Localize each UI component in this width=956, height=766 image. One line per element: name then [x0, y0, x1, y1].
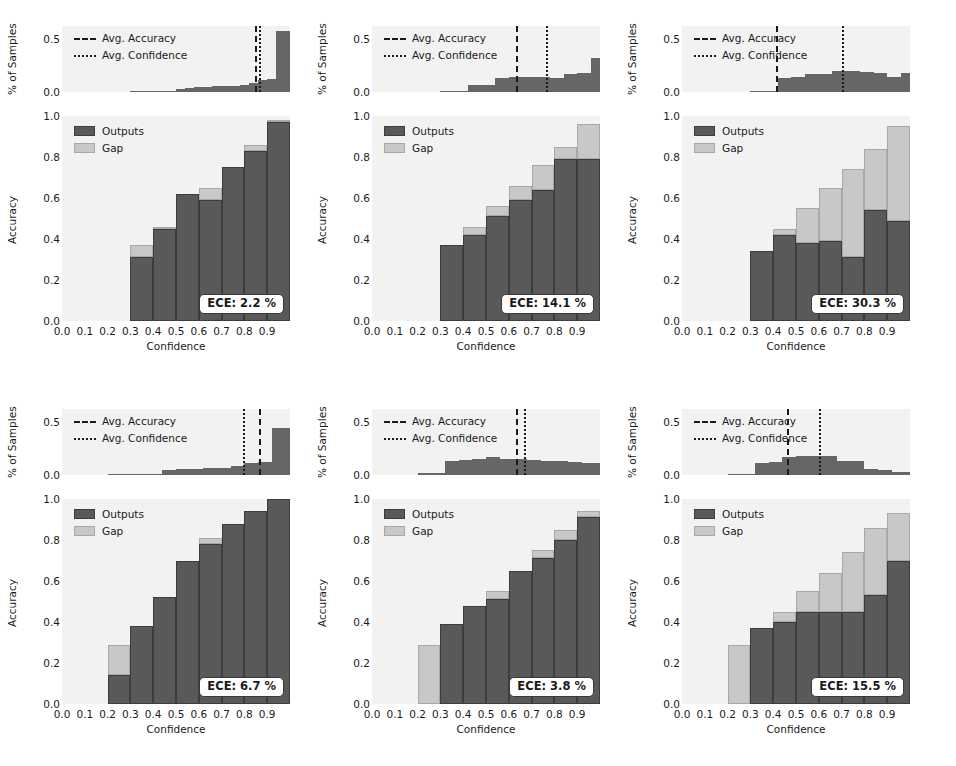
- histogram-legend-label: Avg. Confidence: [722, 430, 807, 447]
- accuracy-y-axis-title: Accuracy: [316, 170, 330, 270]
- reliability-bin: [153, 499, 176, 704]
- reliability-bin: [554, 499, 577, 704]
- histogram-bar: [454, 91, 468, 92]
- histogram-legend-item: Avg. Accuracy: [694, 413, 807, 430]
- reliability-bin: [199, 116, 222, 321]
- dashed-line-icon: [384, 38, 406, 40]
- confidence-x-tick-label: 0.3: [742, 708, 759, 720]
- histogram-legend-item: Avg. Accuracy: [384, 30, 497, 47]
- histogram-bar: [203, 468, 217, 475]
- ece-badge: ECE: 30.3 %: [811, 294, 904, 314]
- hist-y-axis-title: % of Samples: [6, 400, 20, 484]
- reliability-legend: OutputsGap: [74, 505, 144, 539]
- confidence-x-tick-label: 0.5: [478, 325, 495, 337]
- confidence-x-tick-label: 0.0: [674, 325, 691, 337]
- histogram-bar: [564, 74, 578, 92]
- confidence-x-tick-label: 0.7: [213, 708, 230, 720]
- accuracy-y-axis-title: Accuracy: [626, 553, 640, 653]
- confidence-x-axis-ticks: 0.00.10.20.30.40.50.60.70.80.9: [62, 708, 290, 722]
- confidence-x-tick-label: 0.0: [364, 708, 381, 720]
- histogram-bar: [796, 456, 810, 475]
- reliability-legend-label: Gap: [722, 142, 743, 154]
- ece-badge: ECE: 14.1 %: [501, 294, 594, 314]
- hist-y-tick-label: 0.5: [663, 417, 680, 427]
- dark-gray-swatch-icon: [74, 509, 95, 519]
- gap-bar: [486, 206, 509, 216]
- confidence-x-tick-label: 0.3: [432, 708, 449, 720]
- hist-y-axis-ticks: 0.00.5: [650, 409, 680, 475]
- confidence-x-tick-label: 0.8: [856, 325, 873, 337]
- light-gray-swatch-icon: [694, 143, 715, 153]
- confidence-x-tick-label: 0.9: [569, 708, 586, 720]
- histogram-bar: [162, 470, 176, 475]
- histogram-bar: [486, 457, 500, 475]
- histogram-bar: [176, 469, 190, 475]
- hist-y-tick-label: 0.5: [43, 34, 60, 44]
- dashed-line-icon: [74, 421, 96, 423]
- confidence-x-tick-label: 0.2: [99, 325, 116, 337]
- outputs-bar: [486, 599, 509, 704]
- hist-y-tick-label: 0.0: [663, 87, 680, 97]
- accuracy-y-tick-label: 1.0: [353, 494, 370, 504]
- gap-bar: [842, 552, 865, 611]
- avg-confidence-line: [259, 26, 261, 92]
- reliability-legend-label: Gap: [412, 525, 433, 537]
- accuracy-y-tick-label: 0.2: [353, 658, 370, 668]
- avg-confidence-line: [819, 409, 821, 475]
- gap-bar: [463, 227, 486, 235]
- reliability-panel-4: % of Samples0.00.5Avg. AccuracyAvg. Conf…: [0, 383, 318, 766]
- histogram-bar: [149, 91, 158, 92]
- histogram-bar: [554, 461, 568, 475]
- histogram-bar: [130, 91, 139, 92]
- reliability-bin: [887, 116, 910, 321]
- reliability-legend-item: Outputs: [384, 122, 454, 139]
- reliability-legend-label: Outputs: [102, 508, 144, 520]
- reliability-legend: OutputsGap: [694, 122, 764, 156]
- histogram-bar: [536, 77, 550, 92]
- hist-y-tick-label: 0.5: [353, 417, 370, 427]
- dotted-line-icon: [694, 55, 716, 57]
- dashed-line-icon: [384, 421, 406, 423]
- histogram-bar: [568, 462, 582, 475]
- confidence-x-tick-label: 0.9: [879, 325, 896, 337]
- reliability-legend-label: Gap: [102, 142, 123, 154]
- accuracy-y-tick-label: 1.0: [43, 111, 60, 121]
- histogram-bar: [176, 89, 185, 92]
- reliability-legend: OutputsGap: [74, 122, 144, 156]
- dark-gray-swatch-icon: [694, 126, 715, 136]
- histogram-legend-item: Avg. Confidence: [384, 47, 497, 64]
- histogram-bar: [522, 77, 536, 92]
- reliability-legend: OutputsGap: [384, 122, 454, 156]
- gap-bar: [130, 245, 153, 257]
- confidence-x-tick-label: 0.4: [455, 708, 472, 720]
- histogram-bar: [887, 77, 901, 92]
- confidence-histogram: Avg. AccuracyAvg. Confidence: [372, 409, 600, 475]
- histogram-bar: [481, 85, 495, 92]
- histogram-bar: [418, 473, 432, 475]
- confidence-x-axis-title: Confidence: [372, 723, 600, 735]
- histogram-bar: [459, 460, 473, 475]
- histogram-legend-item: Avg. Confidence: [694, 430, 807, 447]
- gap-bar: [728, 645, 751, 704]
- gap-bar: [887, 513, 910, 560]
- reliability-bin: [864, 116, 887, 321]
- hist-y-axis-ticks: 0.00.5: [650, 26, 680, 92]
- reliability-bin: [577, 116, 600, 321]
- histogram-bar: [249, 83, 258, 92]
- accuracy-y-axis-ticks: 0.00.20.40.60.81.0: [30, 116, 60, 321]
- dotted-line-icon: [384, 438, 406, 440]
- dotted-line-icon: [74, 438, 96, 440]
- accuracy-y-tick-label: 0.6: [663, 576, 680, 586]
- reliability-legend-item: Gap: [694, 522, 764, 539]
- reliability-bin: [819, 116, 842, 321]
- accuracy-y-axis-title: Accuracy: [6, 170, 20, 270]
- hist-y-axis-title: % of Samples: [316, 17, 330, 101]
- dark-gray-swatch-icon: [384, 126, 405, 136]
- reliability-bin: [887, 499, 910, 704]
- accuracy-y-tick-label: 0.8: [663, 152, 680, 162]
- confidence-x-tick-label: 0.7: [833, 325, 850, 337]
- gap-bar: [509, 186, 532, 200]
- confidence-x-axis-title: Confidence: [62, 340, 290, 352]
- accuracy-y-tick-label: 0.6: [353, 193, 370, 203]
- histogram-bar: [440, 91, 454, 92]
